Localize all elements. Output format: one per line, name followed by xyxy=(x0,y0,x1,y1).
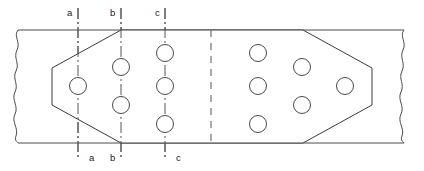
gauge-label-bottom-b: b xyxy=(110,152,115,163)
hole-c-mirror-5 xyxy=(250,116,267,133)
gauge-label-bottom-c: c xyxy=(176,152,181,163)
break-line-right-icon xyxy=(400,30,404,143)
gauge-label-bottom-a: a xyxy=(89,152,95,163)
splice-plate-group xyxy=(52,30,372,143)
hole-b-mirror-2 xyxy=(294,97,311,114)
hole-b-mirror-1 xyxy=(294,59,311,76)
hole-b-1 xyxy=(113,59,130,76)
break-line-left-icon xyxy=(14,30,18,143)
hole-a-0 xyxy=(70,78,87,95)
hole-b-2 xyxy=(113,97,130,114)
hole-c-mirror-4 xyxy=(250,78,267,95)
labels-top-group: abc xyxy=(67,7,160,18)
gauge-label-top-c: c xyxy=(155,7,160,18)
hole-a-mirror-0 xyxy=(337,78,354,95)
technical-drawing-canvas: abc abc xyxy=(0,0,424,171)
splice-plate-outline xyxy=(52,30,372,143)
labels-bottom-group: abc xyxy=(89,152,181,163)
gauge-label-top-b: b xyxy=(110,7,115,18)
hole-c-4 xyxy=(157,78,174,95)
hole-c-5 xyxy=(157,116,174,133)
hole-c-3 xyxy=(157,45,174,62)
gauge-label-top-a: a xyxy=(67,7,73,18)
splice-plate-drawing: abc abc xyxy=(0,0,424,171)
hole-c-mirror-3 xyxy=(250,45,267,62)
